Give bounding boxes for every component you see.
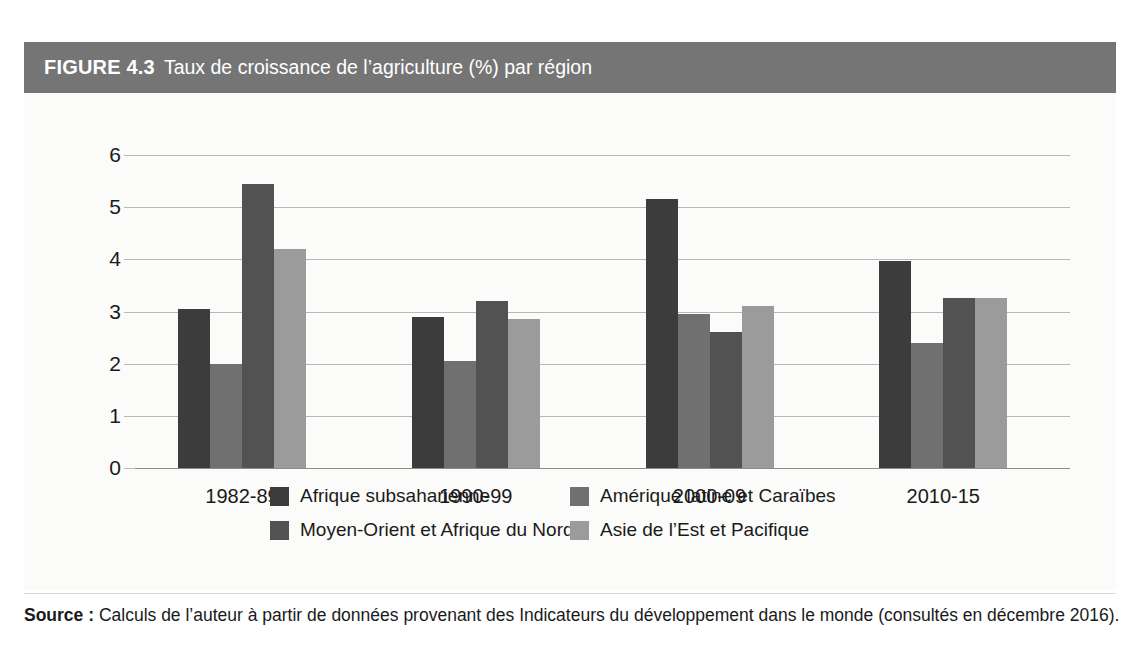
legend-item: Afrique subsaharienne bbox=[270, 485, 570, 507]
y-axis-tick-label: 1 bbox=[109, 405, 121, 426]
source-label: Source : bbox=[24, 605, 94, 625]
y-axis-tick-label: 6 bbox=[109, 144, 121, 165]
legend-swatch-icon bbox=[570, 521, 589, 540]
bar-group bbox=[879, 155, 1007, 468]
legend-item: Moyen-Orient et Afrique du Nord bbox=[270, 519, 570, 541]
bar bbox=[646, 199, 678, 468]
legend-label: Afrique subsaharienne bbox=[300, 485, 490, 507]
legend-swatch-icon bbox=[270, 521, 289, 540]
bar bbox=[242, 184, 274, 468]
bar bbox=[476, 301, 508, 468]
bar bbox=[508, 319, 540, 468]
bar bbox=[975, 298, 1007, 468]
bar bbox=[178, 309, 210, 468]
source-text: Calculs de l’auteur à partir de données … bbox=[94, 605, 1119, 625]
figure-title: Taux de croissance de l’agriculture (%) … bbox=[164, 56, 592, 79]
y-axis-tick-label: 5 bbox=[109, 196, 121, 217]
bar bbox=[210, 364, 242, 468]
bar bbox=[742, 306, 774, 468]
y-axis-tick-label: 0 bbox=[109, 457, 121, 478]
figure-container: FIGURE 4.3 Taux de croissance de l’agric… bbox=[24, 42, 1116, 634]
bar bbox=[678, 314, 710, 468]
bar-group bbox=[178, 155, 306, 468]
bar bbox=[879, 261, 911, 468]
source-note: Source : Calculs de l’auteur à partir de… bbox=[24, 605, 1116, 626]
y-axis-tick-label: 2 bbox=[109, 353, 121, 374]
bar bbox=[444, 361, 476, 468]
y-tick-mark-3 bbox=[124, 312, 135, 313]
figure-title-banner: FIGURE 4.3 Taux de croissance de l’agric… bbox=[24, 42, 1116, 93]
gridline-0 bbox=[135, 468, 1070, 469]
legend-item: Amérique latine et Caraïbes bbox=[570, 485, 870, 507]
bar-group bbox=[412, 155, 540, 468]
bar bbox=[911, 343, 943, 468]
bar-group bbox=[646, 155, 774, 468]
figure-number: FIGURE 4.3 bbox=[44, 56, 155, 79]
legend-label: Amérique latine et Caraïbes bbox=[600, 485, 836, 507]
y-tick-mark-4 bbox=[124, 259, 135, 260]
bar bbox=[274, 249, 306, 468]
legend-swatch-icon bbox=[270, 487, 289, 506]
plot-area: 0123456 1982-891990-992000-092010-15 bbox=[135, 155, 1070, 468]
bar bbox=[943, 298, 975, 468]
bars-layer bbox=[135, 155, 1070, 468]
legend-swatch-icon bbox=[570, 487, 589, 506]
legend-row: Moyen-Orient et Afrique du NordAsie de l… bbox=[24, 513, 1116, 547]
y-axis-tick-label: 4 bbox=[109, 248, 121, 269]
y-tick-mark-6 bbox=[124, 155, 135, 156]
bar bbox=[412, 317, 444, 468]
y-tick-mark-1 bbox=[124, 416, 135, 417]
bar bbox=[710, 332, 742, 468]
y-tick-mark-0 bbox=[124, 468, 135, 469]
source-divider bbox=[24, 593, 1116, 594]
y-tick-mark-5 bbox=[124, 207, 135, 208]
chart-legend: Afrique subsaharienneAmérique latine et … bbox=[24, 479, 1116, 547]
legend-item: Asie de l’Est et Pacifique bbox=[570, 519, 870, 541]
legend-label: Asie de l’Est et Pacifique bbox=[600, 519, 809, 541]
y-axis-tick-label: 3 bbox=[109, 301, 121, 322]
y-tick-mark-2 bbox=[124, 364, 135, 365]
legend-label: Moyen-Orient et Afrique du Nord bbox=[300, 519, 574, 541]
legend-row: Afrique subsaharienneAmérique latine et … bbox=[24, 479, 1116, 513]
